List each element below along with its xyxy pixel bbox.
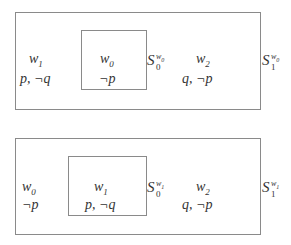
- world-label: w0: [22, 180, 36, 199]
- world-label: w2: [196, 52, 210, 71]
- world-props: ¬p: [99, 72, 115, 86]
- outer-sphere-label: S w0 1: [262, 53, 270, 68]
- world-props: ¬p: [22, 198, 38, 212]
- world-label: w1: [94, 180, 108, 199]
- world-props: p, ¬q: [20, 72, 50, 86]
- world-label: w2: [196, 180, 210, 199]
- inner-sphere-label: S w1 0: [147, 180, 155, 195]
- world-props: q, ¬p: [182, 198, 212, 212]
- world-props: q, ¬p: [182, 72, 212, 86]
- world-label: w1: [29, 52, 43, 71]
- world-label: w0: [100, 52, 114, 71]
- outer-sphere-label: S w1 1: [262, 180, 270, 195]
- world-props: p, ¬q: [85, 198, 115, 212]
- inner-sphere-label: S w0 0: [147, 53, 155, 68]
